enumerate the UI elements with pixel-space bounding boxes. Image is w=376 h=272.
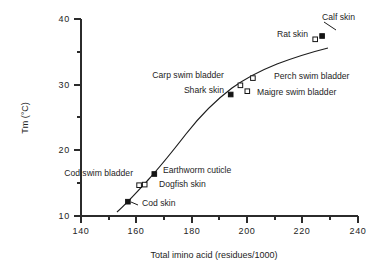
x-tick-label-160: 160 (127, 226, 144, 236)
y-tick-label-40: 40 (59, 14, 70, 24)
x-axis-tick-labels: 140 160 180 200 220 240 (72, 226, 366, 236)
point-cod-skin[interactable] (126, 199, 131, 204)
chart-figure: 40 30 20 10 140 160 180 200 220 240 (0, 0, 376, 272)
label-cod-swim-bladder: Cod swim bladder (64, 168, 133, 178)
label-earthworm-cuticle: Earthworm cuticle (163, 165, 232, 175)
point-earthworm-cuticle[interactable] (152, 172, 157, 177)
x-axis-title: Total imino acid (residues/1000) (150, 250, 277, 260)
point-carp-swim-bladder[interactable] (238, 83, 243, 88)
point-maigre-swim-bladder[interactable] (245, 89, 250, 94)
label-cod-skin: Cod skin (142, 198, 176, 208)
scatter-plot: 40 30 20 10 140 160 180 200 220 240 (0, 0, 376, 272)
label-calf-skin: Calf skin (322, 12, 355, 22)
x-tick-label-240: 240 (349, 226, 366, 236)
label-maigre-swim-bladder: Maigre swim bladder (257, 87, 336, 97)
y-tick-label-30: 30 (59, 80, 70, 90)
y-tick-label-20: 20 (59, 145, 70, 155)
y-axis-title: Tm (°C) (20, 102, 30, 134)
point-cod-swim-bladder[interactable] (137, 183, 142, 188)
label-rat-skin: Rat skin (277, 29, 308, 39)
point-shark-skin[interactable] (228, 92, 233, 97)
leader-lines (131, 22, 336, 205)
leader-cod-skin (131, 202, 138, 205)
leader-calf-skin (324, 22, 336, 30)
point-perch-swim-bladder[interactable] (251, 76, 256, 81)
y-axis-tick-labels: 40 30 20 10 (59, 14, 70, 221)
axes (81, 19, 358, 216)
x-tick-label-220: 220 (293, 226, 310, 236)
x-tick-label-180: 180 (183, 226, 200, 236)
y-axis-ticks (74, 19, 81, 216)
x-tick-label-200: 200 (238, 226, 255, 236)
point-calf-skin[interactable] (320, 34, 325, 39)
label-perch-swim-bladder: Perch swim bladder (274, 71, 350, 81)
x-axis-ticks (81, 216, 358, 223)
x-tick-label-140: 140 (72, 226, 89, 236)
y-tick-label-10: 10 (59, 211, 70, 221)
label-shark-skin: Shark skin (184, 85, 224, 95)
label-carp-swim-bladder: Carp swim bladder (152, 70, 224, 80)
label-dogfish-skin: Dogfish skin (159, 179, 206, 189)
point-rat-skin[interactable] (313, 37, 318, 42)
point-annotations: Calf skin Rat skin Carp swim bladder Per… (64, 12, 355, 208)
data-points (126, 34, 325, 204)
point-dogfish-skin[interactable] (142, 182, 147, 187)
